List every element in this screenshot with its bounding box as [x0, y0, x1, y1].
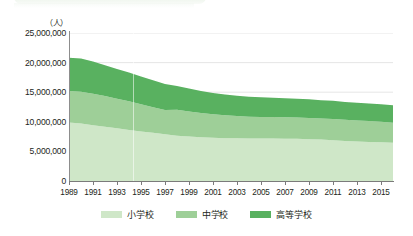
x-axis-tick-mark — [213, 181, 214, 185]
x-axis-tick-mark — [93, 181, 94, 185]
x-axis-tick-label: 2015 — [372, 188, 389, 197]
legend-item: 高等学校 — [250, 208, 311, 221]
y-axis-tick-label: 15,000,000 — [25, 87, 66, 97]
x-axis-tick-mark — [165, 181, 166, 185]
legend-swatch-icon — [250, 211, 271, 218]
x-axis-tick-label: 1991 — [84, 188, 101, 197]
x-axis-tick-label: 1989 — [60, 188, 77, 197]
x-axis-tick-mark — [357, 181, 358, 185]
y-axis-tick-label: 25,000,000 — [25, 28, 66, 38]
x-axis-tick-mark — [237, 181, 238, 185]
legend-item: 小学校 — [101, 208, 153, 221]
y-axis-tick-label: 0 — [61, 176, 66, 186]
plot-svg — [69, 33, 393, 181]
x-axis-tick-label: 1995 — [132, 188, 149, 197]
x-axis-tick-mark — [141, 181, 142, 185]
legend-label: 高等学校 — [276, 208, 311, 221]
y-axis-tick-label: 20,000,000 — [25, 58, 66, 68]
legend-label: 小学校 — [127, 208, 153, 221]
x-axis-tick-label: 2009 — [300, 188, 317, 197]
plot-area — [69, 33, 393, 181]
x-axis-tick-mark — [333, 181, 334, 185]
x-axis-tick-label: 2003 — [228, 188, 245, 197]
legend-swatch-icon — [176, 211, 197, 218]
x-axis-tick-label: 1997 — [156, 188, 173, 197]
x-axis-tick-label: 2011 — [325, 188, 342, 197]
y-axis-tick-label: 10,000,000 — [25, 117, 66, 127]
x-axis-tick-mark — [117, 181, 118, 185]
x-axis-tick-label: 2001 — [204, 188, 221, 197]
chart-legend: 小学校中学校高等学校 — [0, 208, 413, 221]
stacked-area-chart: （人） 25,000,00020,000,00015,000,00010,000… — [0, 0, 413, 236]
area-series-group — [69, 58, 393, 181]
y-axis-unit-label: （人） — [45, 17, 68, 28]
x-axis-tick-label: 2007 — [276, 188, 293, 197]
x-axis-tick-mark — [261, 181, 262, 185]
legend-item: 中学校 — [176, 208, 228, 221]
x-axis-tick-mark — [285, 181, 286, 185]
x-axis-tick-mark — [69, 181, 70, 185]
x-axis-tick-label: 2013 — [348, 188, 365, 197]
scan-artifact-line — [133, 33, 134, 181]
x-axis-tick-mark — [309, 181, 310, 185]
legend-swatch-icon — [101, 211, 122, 218]
x-axis-tick-mark — [189, 181, 190, 185]
x-axis-tick-label: 1999 — [180, 188, 197, 197]
x-axis-tick-mark — [381, 181, 382, 185]
legend-label: 中学校 — [202, 208, 228, 221]
x-axis-tick-label: 2005 — [252, 188, 269, 197]
y-axis-tick-label: 5,000,000 — [30, 146, 66, 156]
y-axis-line — [69, 31, 70, 182]
x-axis-tick-label: 1993 — [108, 188, 125, 197]
